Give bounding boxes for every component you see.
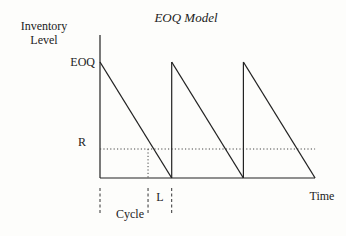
chart-title: EOQ Model [153, 10, 218, 25]
eoq-tick-label: EOQ [70, 55, 95, 69]
depletion-line [100, 62, 172, 178]
x-axis-label: Time [310, 189, 335, 203]
eoq-diagram: EOQ Model Inventory Level EOQ R Time Cyc… [0, 0, 346, 236]
y-axis-label-line2: Level [30, 33, 58, 47]
lead-time-label: L [156, 190, 163, 204]
depletion-line [172, 62, 244, 178]
cycle-label: Cycle [116, 207, 144, 221]
depletion-line [243, 62, 315, 178]
y-axis-label-line1: Inventory [21, 19, 68, 33]
reorder-tick-label: R [78, 135, 86, 149]
